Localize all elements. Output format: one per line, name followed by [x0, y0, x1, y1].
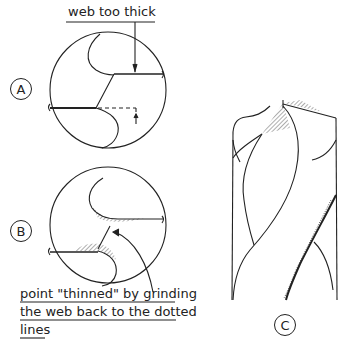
figure-label-a: A: [10, 78, 32, 100]
callout-thinned-line1: point "thinned" by grinding: [20, 286, 197, 302]
figure-label-b: B: [10, 220, 32, 242]
callout-web-too-thick: web too thick: [68, 4, 156, 20]
callout-thinned-line3: lines: [20, 322, 50, 338]
drill-thinning-diagram: web too thick A B C point "thinned" by g…: [0, 0, 343, 349]
figure-c-drawing: [232, 100, 337, 300]
figure-label-c: C: [274, 314, 296, 336]
callout-thinned-line2: the web back to the dotted: [20, 304, 197, 320]
figure-b-drawing: [49, 167, 167, 292]
figure-a-drawing: [49, 22, 167, 148]
